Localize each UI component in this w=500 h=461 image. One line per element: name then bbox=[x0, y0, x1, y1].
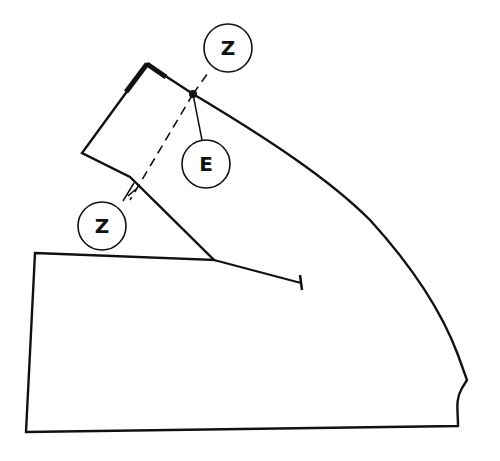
label-z-left: Z bbox=[78, 202, 126, 250]
pattern-diagram: Z E Z bbox=[0, 0, 500, 461]
label-z-top: Z bbox=[204, 24, 252, 72]
leader-z-top bbox=[193, 70, 210, 94]
svg-text:E: E bbox=[199, 152, 213, 176]
svg-text:Z: Z bbox=[221, 36, 236, 60]
dart-line bbox=[214, 260, 301, 283]
thick-edge-mark-right bbox=[147, 64, 166, 77]
label-e: E bbox=[182, 140, 230, 188]
dashed-fold-line bbox=[130, 94, 193, 200]
dart-end-bar bbox=[300, 275, 302, 290]
leader-e bbox=[193, 94, 202, 140]
thick-edge-mark-left bbox=[126, 64, 147, 92]
svg-text:Z: Z bbox=[95, 214, 110, 238]
diagram-canvas: Z E Z bbox=[0, 0, 500, 461]
